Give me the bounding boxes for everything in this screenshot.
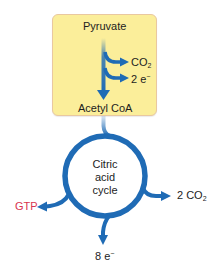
- co2-output-arrowhead: [161, 191, 171, 201]
- cycle-label-line3: cycle: [70, 184, 140, 197]
- cycle-label-line2: acid: [70, 171, 140, 184]
- gtp-label: GTP: [15, 201, 38, 212]
- gtp-output-arrowhead: [37, 202, 47, 212]
- citric-acid-cycle-label: Citric acid cycle: [70, 158, 140, 197]
- pyruvate-to-acetylcoa-arrow: [97, 38, 129, 100]
- two-co2-label: 2 CO2: [177, 190, 207, 202]
- pyruvate-label: Pyruvate: [83, 21, 126, 32]
- co2-label: CO2: [131, 57, 151, 69]
- cycle-label-line1: Citric: [70, 158, 140, 171]
- acetyl-coa-label: Acetyl CoA: [78, 103, 132, 114]
- pathway-arrows: [0, 0, 220, 269]
- acetylcoa-entry-connector: [104, 116, 111, 136]
- two-electrons-label: 2 e−: [131, 73, 150, 85]
- eight-electrons-label: 8 e−: [95, 250, 114, 262]
- electrons-output-arrowhead: [98, 235, 108, 245]
